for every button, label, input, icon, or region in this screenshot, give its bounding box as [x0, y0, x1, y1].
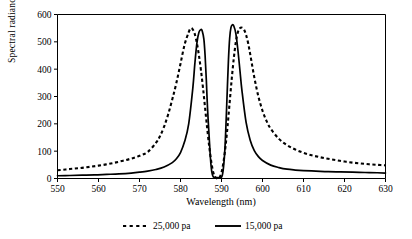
- x-tick-labels: 550560570580590600610620630: [50, 184, 393, 194]
- axis-ticks: [54, 15, 386, 183]
- x-tick-label: 630: [378, 184, 393, 194]
- chart-canvas: 550560570580590600610620630 010020030040…: [0, 0, 412, 239]
- x-tick-label: 560: [91, 184, 106, 194]
- x-tick-label: 590: [214, 184, 229, 194]
- y-tick-label: 200: [37, 119, 52, 129]
- x-tick-label: 550: [50, 184, 65, 194]
- x-tick-label: 620: [337, 184, 352, 194]
- x-tick-label: 570: [132, 184, 147, 194]
- y-tick-label: 0: [47, 174, 52, 184]
- legend-label-1: 25,000 pa: [153, 221, 191, 231]
- x-tick-label: 610: [296, 184, 311, 194]
- series-line-1: [58, 27, 386, 178]
- x-axis-title: Wavelength (nm): [186, 196, 255, 208]
- y-tick-label: 300: [37, 92, 52, 102]
- x-tick-label: 600: [255, 184, 270, 194]
- y-tick-labels: 0100200300400500600: [37, 10, 52, 184]
- chart-legend: 25,000 pa15,000 pa: [123, 221, 283, 231]
- x-tick-label: 580: [173, 184, 188, 194]
- data-series-group: [58, 25, 386, 179]
- y-tick-label: 100: [37, 147, 52, 157]
- figure: Spectral radiance 5505605705805906006106…: [0, 0, 412, 239]
- plot-frame: [58, 15, 386, 179]
- y-tick-label: 400: [37, 65, 52, 75]
- series-line-2: [58, 25, 386, 178]
- y-tick-label: 500: [37, 37, 52, 47]
- y-tick-label: 600: [37, 10, 52, 20]
- legend-label-2: 15,000 pa: [245, 221, 283, 231]
